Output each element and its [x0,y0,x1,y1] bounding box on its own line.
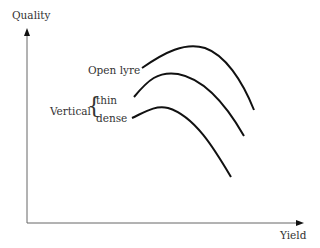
curve-label-dense: dense [96,113,127,124]
curve-vertical-dense [132,107,231,177]
group-label-vertical: Vertical [50,106,91,117]
diagram-canvas [0,0,320,248]
curve-label-open-lyre: Open lyre [88,65,140,76]
quality-yield-diagram: Quality Yield Open lyre Vertical { thin … [0,0,320,248]
y-axis-label: Quality [12,10,51,21]
curve-vertical-thin [134,73,244,136]
curve-label-thin: thin [96,95,117,106]
curve-open-lyre [142,46,254,110]
x-axis-label: Yield [280,230,306,241]
